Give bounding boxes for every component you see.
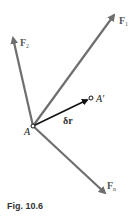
label-f1: F1 [119, 16, 128, 29]
label-f2: F2 [20, 38, 29, 51]
force-f2-arrow [13, 38, 33, 126]
label-f1-subscript: 1 [125, 21, 128, 27]
point-a-prime-marker [89, 96, 93, 100]
label-fn: Fn [107, 181, 116, 194]
figure-canvas: F1 F2 Fn A A′ δr Fig. 10.6 [0, 0, 131, 217]
label-f2-subscript: 2 [26, 43, 29, 49]
label-point-a-prime: A′ [96, 94, 104, 104]
figure-caption: Fig. 10.6 [7, 201, 43, 211]
label-fn-subscript: n [113, 186, 116, 192]
label-point-a: A [24, 127, 30, 137]
force-f1-arrow [33, 15, 114, 126]
point-a-marker [31, 124, 35, 128]
label-delta-r: δr [63, 116, 73, 126]
force-fn-arrow [33, 126, 105, 193]
displacement-arrow [33, 100, 87, 126]
